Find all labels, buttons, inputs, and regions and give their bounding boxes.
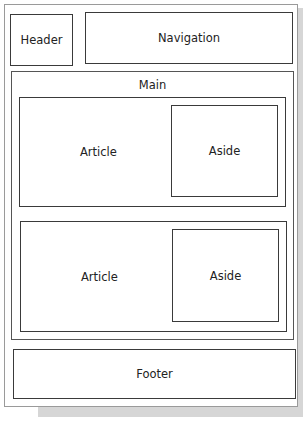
header-box: Header bbox=[10, 14, 73, 66]
navigation-box: Navigation bbox=[85, 12, 293, 64]
aside-label-1: Aside bbox=[209, 144, 240, 158]
navigation-label: Navigation bbox=[158, 31, 220, 45]
header-label: Header bbox=[21, 33, 63, 47]
article-label-2: Article bbox=[81, 270, 118, 284]
aside-box-1: Aside bbox=[171, 105, 278, 197]
main-label: Main bbox=[139, 78, 166, 92]
article-label-1: Article bbox=[80, 145, 117, 159]
aside-box-2: Aside bbox=[172, 229, 279, 322]
footer-box: Footer bbox=[13, 349, 296, 399]
footer-label: Footer bbox=[136, 367, 173, 381]
aside-label-2: Aside bbox=[210, 269, 241, 283]
